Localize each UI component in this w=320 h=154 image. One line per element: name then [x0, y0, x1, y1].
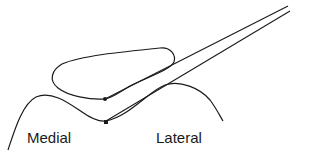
- upper-contact-point: [103, 97, 107, 101]
- lateral-label: Lateral: [156, 130, 202, 145]
- lower-contact-point: [104, 120, 108, 124]
- medial-label: Medial: [27, 130, 71, 145]
- instrument-lower-arm: [106, 11, 290, 121]
- instrument-upper-arm: [105, 6, 288, 99]
